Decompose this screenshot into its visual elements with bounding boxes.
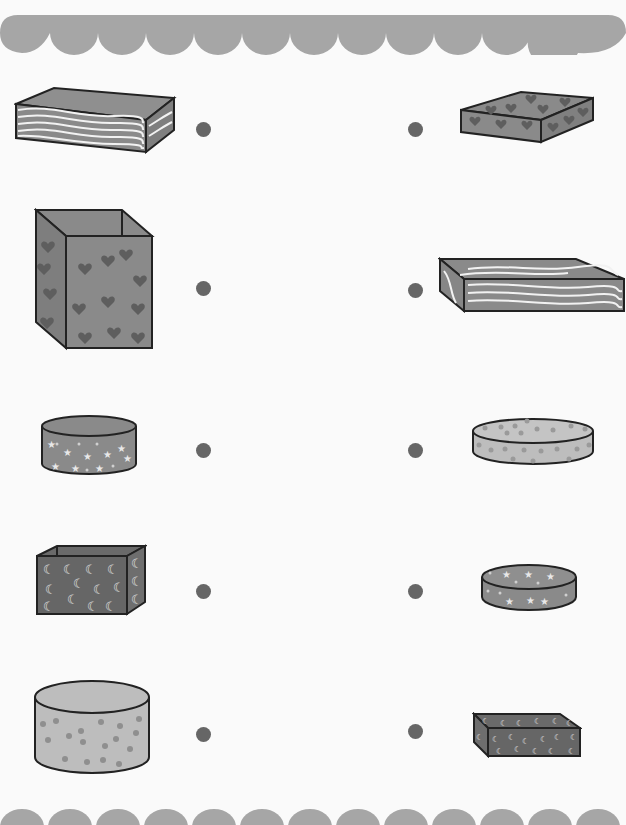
scallop-border-bottom [0,805,626,825]
svg-text:★: ★ [95,463,104,474]
right-dot-5[interactable] [408,724,423,739]
svg-text:☾: ☾ [113,580,125,595]
svg-text:★: ★ [83,451,92,462]
svg-text:☾: ☾ [131,592,143,607]
right-dot-3[interactable] [408,443,423,458]
right-dot-1[interactable] [408,122,423,137]
svg-text:☾: ☾ [568,747,575,756]
left-shape-4-moon-box[interactable]: ☾☾☾☾ ☾☾☾☾ ☾☾☾☾ ☾☾☾ [35,544,147,616]
right-shape-4-star-flat-cylinder[interactable]: ★★★ ★★★ [480,563,578,613]
svg-text:☾: ☾ [500,719,507,728]
svg-text:☾: ☾ [87,599,99,614]
svg-text:☾: ☾ [73,576,85,591]
svg-text:☾: ☾ [85,562,97,577]
svg-text:☾: ☾ [496,747,503,756]
left-shape-5-dot-cylinder[interactable] [33,679,151,775]
left-dot-2[interactable] [196,281,211,296]
svg-text:★: ★ [63,447,72,458]
right-shape-3-dot-flat-cylinder[interactable] [471,417,595,467]
right-dot-2[interactable] [408,283,423,298]
left-shape-1-wavy-box[interactable] [14,86,178,154]
svg-text:☾: ☾ [570,733,577,742]
svg-text:☾: ☾ [508,733,515,742]
svg-text:☾: ☾ [534,717,541,726]
svg-text:★: ★ [526,595,535,606]
left-dot-5[interactable] [196,727,211,742]
worksheet-title [0,0,626,5]
svg-text:★: ★ [540,596,549,607]
svg-text:★: ★ [51,461,60,472]
svg-text:☾: ☾ [43,599,55,614]
svg-text:★: ★ [546,571,555,582]
svg-text:★: ★ [502,569,511,580]
svg-text:★: ★ [505,596,514,607]
svg-text:☾: ☾ [476,733,483,742]
left-shape-3-star-cylinder[interactable]: ★★★★★★★★★ [39,414,139,478]
svg-text:☾: ☾ [522,737,529,746]
scallop-border-top [0,15,626,55]
svg-text:☾: ☾ [43,562,55,577]
svg-text:☾: ☾ [554,733,561,742]
left-dot-3[interactable] [196,443,211,458]
left-dot-1[interactable] [196,122,211,137]
svg-text:☾: ☾ [45,582,57,597]
svg-text:☾: ☾ [492,735,499,744]
left-shape-2-heart-box[interactable] [34,208,156,352]
svg-text:★: ★ [71,463,80,474]
svg-text:☾: ☾ [514,745,521,754]
svg-text:☾: ☾ [107,562,119,577]
right-shape-1-heart-flat-box[interactable] [459,90,595,144]
svg-text:★: ★ [524,569,533,580]
svg-text:★: ★ [103,449,112,460]
svg-text:☾: ☾ [566,719,573,728]
right-shape-5-moon-flat-box[interactable]: ☾☾☾☾☾☾ ☾☾☾☾☾☾☾ ☾☾☾☾☾ [472,712,582,758]
svg-text:☾: ☾ [532,747,539,756]
svg-text:☾: ☾ [67,592,79,607]
right-shape-2-wavy-flat-box[interactable] [438,257,626,313]
svg-text:★: ★ [123,453,132,464]
svg-text:☾: ☾ [63,562,75,577]
svg-text:★: ★ [47,439,56,450]
left-dot-4[interactable] [196,584,211,599]
svg-text:☾: ☾ [548,747,555,756]
svg-text:☾: ☾ [552,717,559,726]
svg-text:☾: ☾ [105,599,117,614]
svg-text:☾: ☾ [131,556,143,571]
svg-text:☾: ☾ [93,582,105,597]
svg-text:☾: ☾ [131,574,143,589]
svg-text:☾: ☾ [540,735,547,744]
svg-text:☾: ☾ [516,719,523,728]
svg-text:☾: ☾ [482,717,489,726]
right-dot-4[interactable] [408,584,423,599]
